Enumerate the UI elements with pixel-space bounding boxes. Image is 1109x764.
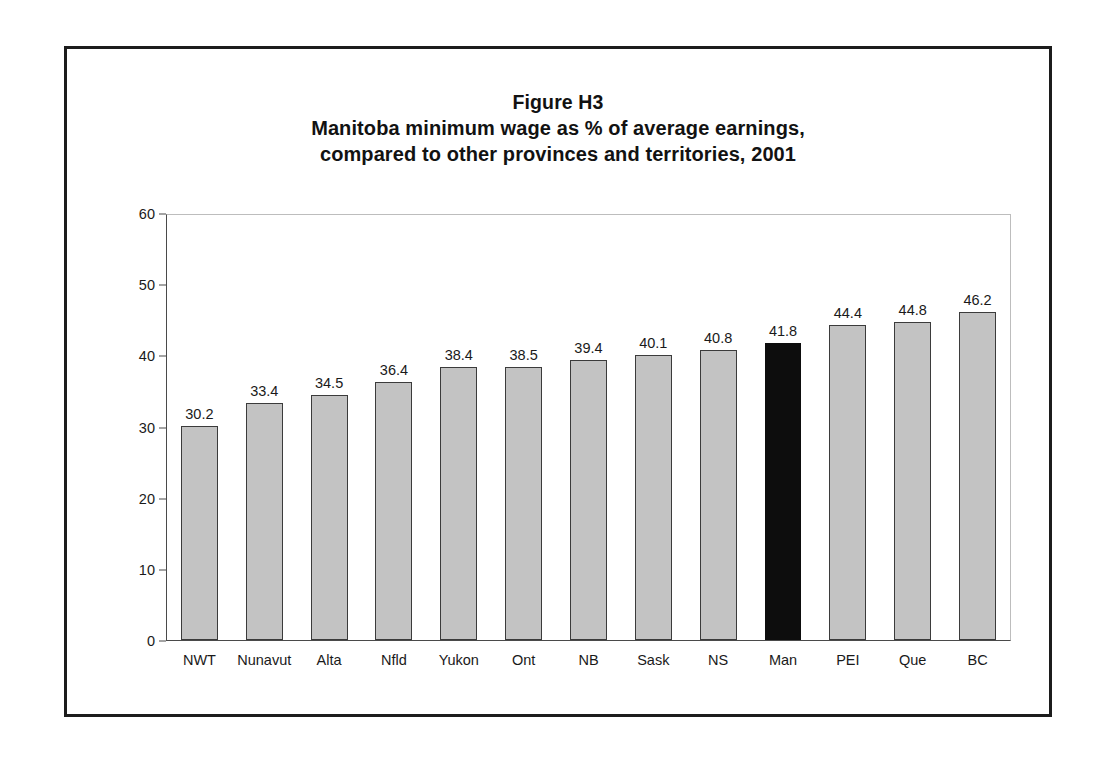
y-axis-tick-label: 40 xyxy=(139,348,155,364)
bar-pei[interactable]: 44.4 xyxy=(829,325,866,640)
bar-value-label: 46.2 xyxy=(963,292,991,308)
bar-man[interactable]: 41.8 xyxy=(765,343,802,640)
y-axis-tick: 0 xyxy=(147,633,166,649)
y-axis-tick-mark xyxy=(159,356,166,357)
y-axis-tick-mark xyxy=(159,569,166,570)
bar-slot: 34.5 xyxy=(297,214,362,640)
bar-slot: 40.1 xyxy=(621,214,686,640)
x-axis-label-que: Que xyxy=(880,652,945,668)
bar-series: 30.233.434.536.438.438.539.440.140.841.8… xyxy=(167,214,1010,640)
y-axis-tick: 20 xyxy=(139,491,166,507)
bar-slot: 36.4 xyxy=(362,214,427,640)
y-axis-tick-label: 10 xyxy=(139,562,155,578)
bar-value-label: 30.2 xyxy=(185,406,213,422)
x-axis-label-man: Man xyxy=(751,652,816,668)
x-axis-label-alta: Alta xyxy=(297,652,362,668)
bar-slot: 46.2 xyxy=(945,214,1010,640)
bar-nfld[interactable]: 36.4 xyxy=(375,382,412,640)
x-axis-label-yukon: Yukon xyxy=(426,652,491,668)
bar-value-label: 38.5 xyxy=(510,347,538,363)
bar-nwt[interactable]: 30.2 xyxy=(181,426,218,640)
bar-ns[interactable]: 40.8 xyxy=(700,350,737,640)
y-axis-tick-label: 60 xyxy=(139,206,155,222)
y-axis-tick-label: 30 xyxy=(139,420,155,436)
bar-value-label: 44.4 xyxy=(834,305,862,321)
bar-bc[interactable]: 46.2 xyxy=(959,312,996,640)
bar-value-label: 39.4 xyxy=(574,340,602,356)
y-axis-tick: 60 xyxy=(139,206,166,222)
bar-slot: 44.4 xyxy=(815,214,880,640)
page-root: Figure H3 Manitoba minimum wage as % of … xyxy=(0,0,1109,764)
chart-title: Figure H3 Manitoba minimum wage as % of … xyxy=(67,89,1049,167)
y-axis-tick-mark xyxy=(159,427,166,428)
x-axis-label-sask: Sask xyxy=(621,652,686,668)
y-axis-tick-mark xyxy=(159,498,166,499)
y-axis-tick-mark xyxy=(159,641,166,642)
x-axis-label-nunavut: Nunavut xyxy=(232,652,297,668)
title-line-3: compared to other provinces and territor… xyxy=(67,141,1049,167)
bar-slot: 40.8 xyxy=(686,214,751,640)
y-axis-tick-mark xyxy=(159,214,166,215)
x-axis-label-ont: Ont xyxy=(491,652,556,668)
y-axis-tick-label: 20 xyxy=(139,491,155,507)
y-axis-tick-mark xyxy=(159,285,166,286)
y-axis-tick: 50 xyxy=(139,277,166,293)
bar-slot: 41.8 xyxy=(751,214,816,640)
bar-value-label: 40.1 xyxy=(639,335,667,351)
bar-sask[interactable]: 40.1 xyxy=(635,355,672,640)
bar-slot: 39.4 xyxy=(556,214,621,640)
bar-slot: 38.5 xyxy=(491,214,556,640)
bar-ont[interactable]: 38.5 xyxy=(505,367,542,640)
bar-value-label: 40.8 xyxy=(704,330,732,346)
x-axis-label-bc: BC xyxy=(945,652,1010,668)
bar-slot: 33.4 xyxy=(232,214,297,640)
x-axis-label-pei: PEI xyxy=(815,652,880,668)
bar-value-label: 33.4 xyxy=(250,383,278,399)
bar-alta[interactable]: 34.5 xyxy=(311,395,348,640)
bar-value-label: 41.8 xyxy=(769,323,797,339)
bar-slot: 30.2 xyxy=(167,214,232,640)
bar-slot: 44.8 xyxy=(880,214,945,640)
bar-value-label: 38.4 xyxy=(445,347,473,363)
x-axis-label-ns: NS xyxy=(686,652,751,668)
x-axis-label-nb: NB xyxy=(556,652,621,668)
y-axis-tick-label: 50 xyxy=(139,277,155,293)
y-axis-tick: 40 xyxy=(139,348,166,364)
figure-frame: Figure H3 Manitoba minimum wage as % of … xyxy=(64,46,1052,717)
bar-que[interactable]: 44.8 xyxy=(894,322,931,640)
x-axis-labels: NWTNunavutAltaNfldYukonOntNBSaskNSManPEI… xyxy=(167,641,1010,668)
title-line-2: Manitoba minimum wage as % of average ea… xyxy=(67,115,1049,141)
bar-nb[interactable]: 39.4 xyxy=(570,360,607,640)
bar-value-label: 36.4 xyxy=(380,362,408,378)
bar-value-label: 44.8 xyxy=(899,302,927,318)
bar-slot: 38.4 xyxy=(426,214,491,640)
title-line-1: Figure H3 xyxy=(67,89,1049,115)
bar-value-label: 34.5 xyxy=(315,375,343,391)
bar-nunavut[interactable]: 33.4 xyxy=(246,403,283,640)
y-axis-tick: 30 xyxy=(139,420,166,436)
x-axis-label-nfld: Nfld xyxy=(362,652,427,668)
y-axis-tick-label: 0 xyxy=(147,633,155,649)
y-axis-tick: 10 xyxy=(139,562,166,578)
plot-wrap: 6050403020100 30.233.434.536.438.438.539… xyxy=(166,214,1011,641)
bar-yukon[interactable]: 38.4 xyxy=(440,367,477,640)
x-axis-label-nwt: NWT xyxy=(167,652,232,668)
